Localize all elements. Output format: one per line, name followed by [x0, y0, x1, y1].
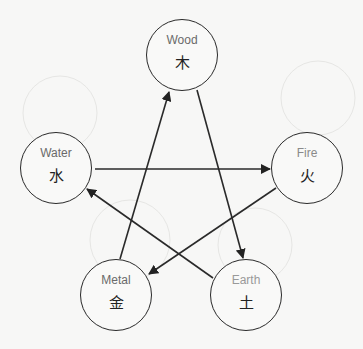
node-metal: Metal 金 [80, 259, 152, 331]
node-fire-glyph: 火 [300, 164, 315, 185]
node-metal-label: Metal [101, 273, 130, 287]
node-earth: Earth 土 [210, 259, 282, 331]
node-fire: Fire 火 [271, 132, 343, 204]
node-wood-label: Wood [166, 33, 197, 47]
node-wood-glyph: 木 [175, 51, 190, 72]
node-water: Water 水 [20, 132, 92, 204]
node-water-glyph: 水 [49, 164, 64, 185]
node-wood: Wood 木 [146, 19, 218, 91]
node-water-label: Water [40, 146, 72, 160]
node-metal-glyph: 金 [109, 291, 124, 312]
edge-metal-wood [120, 92, 169, 259]
node-earth-label: Earth [232, 273, 261, 287]
node-fire-label: Fire [297, 146, 318, 160]
node-earth-glyph: 土 [239, 291, 254, 312]
